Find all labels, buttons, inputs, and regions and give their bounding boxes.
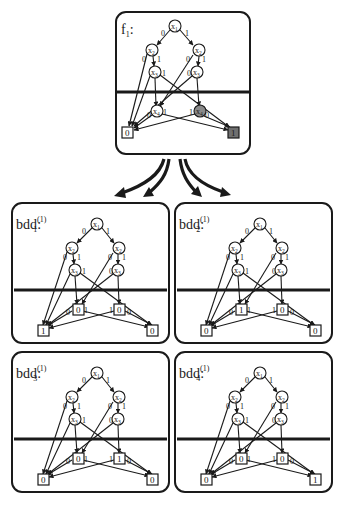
terminal-left: 0 [38,474,49,485]
svg-text:1: 1 [41,326,46,336]
cut-terminal-right: 0 [277,453,288,464]
svg-text:0: 0 [63,402,67,411]
svg-text:0: 0 [280,305,285,315]
node-x3L: x3 [69,264,81,276]
terminal-1-shaded: 1 [228,127,239,138]
svg-text:1: 1 [106,376,110,385]
svg-text:0: 0 [76,305,81,315]
svg-text:0: 0 [187,69,191,78]
svg-text:1: 1 [272,306,276,315]
svg-text:0: 0 [245,376,249,385]
svg-text:1: 1 [285,253,289,262]
node-x2L: x2 [66,242,78,254]
svg-text:0: 0 [125,128,130,138]
cut-terminal-left: 1 [236,304,247,315]
svg-text:0: 0 [226,402,230,411]
svg-text:1: 1 [231,128,236,138]
node-x1: x1 [169,20,181,32]
node-x2R: x2 [276,391,288,403]
svg-text:0: 0 [63,253,67,262]
svg-text:1: 1 [109,455,113,464]
svg-text:0: 0 [186,55,190,64]
node-x2-right: x2 [193,44,205,56]
svg-text:1: 1 [245,267,249,276]
sub-panel-bdd4: bdd(1)4:010101100110x1x2x2x3x30001 [175,352,332,492]
node-x3L: x3 [232,413,244,425]
svg-text:1: 1 [247,455,251,464]
sub-panel-bdd1: bdd(1)1:010101100110x1x2x2x3x30010 [12,203,169,343]
node-x3R: x3 [112,413,124,425]
svg-text:1: 1 [82,267,86,276]
svg-text:0: 0 [313,326,318,336]
svg-text:1: 1 [117,454,122,464]
node-x3-right: x3 [191,66,203,78]
svg-text:1: 1 [82,416,86,425]
node-x2R: x2 [113,242,125,254]
node-x3L: x3 [69,413,81,425]
node-x3R: x3 [112,264,124,276]
terminal-left: 0 [201,474,212,485]
svg-text:1: 1 [239,305,244,315]
svg-text:1: 1 [272,455,276,464]
svg-text:0: 0 [41,475,46,485]
node-x2-left: x2 [146,44,158,56]
node-x4-left: x4 [151,105,163,117]
terminal-right: 1 [310,474,321,485]
svg-text:1: 1 [313,475,318,485]
terminal-left: 0 [201,325,212,336]
node-x2L: x2 [229,391,241,403]
cut-terminal-left: 0 [73,453,84,464]
svg-text:1: 1 [285,402,289,411]
svg-text:0: 0 [204,326,209,336]
svg-text:0: 0 [76,454,81,464]
cut-terminal-left: 0 [236,453,247,464]
terminal-left: 1 [38,325,49,336]
svg-text:0: 0 [229,308,233,317]
node-x2R: x2 [276,242,288,254]
cut-terminal-right: 1 [114,453,125,464]
svg-text:1: 1 [202,55,206,64]
svg-text:1: 1 [247,306,251,315]
svg-text:0: 0 [271,253,275,262]
svg-text:0: 0 [204,475,209,485]
svg-text:0: 0 [271,402,275,411]
svg-text:1: 1 [245,416,249,425]
svg-text:0: 0 [239,454,244,464]
svg-text:1: 1 [189,108,193,117]
svg-text:0: 0 [66,308,70,317]
cut-terminal-right: 0 [277,304,288,315]
svg-text:0: 0 [66,457,70,466]
svg-text:1: 1 [106,227,110,236]
svg-text:1: 1 [163,108,167,117]
sub-panel-bdd3: bdd(1)3:010101100110x1x2x2x3x30100 [12,352,169,492]
cut-terminal-right: 0 [114,304,125,315]
decomposition-arrows [114,159,231,198]
terminal-0: 0 [122,127,133,138]
svg-text:0: 0 [150,326,155,336]
node-x2L: x2 [66,391,78,403]
svg-text:0: 0 [290,308,294,317]
svg-text:1: 1 [157,55,161,64]
svg-text:1: 1 [269,227,273,236]
terminal-right: 0 [310,325,321,336]
svg-text:0: 0 [290,457,294,466]
terminal-right: 0 [147,474,158,485]
svg-text:0: 0 [161,29,165,38]
main-panel-f1: f1: 0 1 0 1 0 1 1 [116,12,250,154]
svg-text:0: 0 [280,454,285,464]
svg-text:1: 1 [162,69,166,78]
svg-text:1: 1 [109,306,113,315]
svg-text:1: 1 [77,253,81,262]
svg-text:0: 0 [226,253,230,262]
node-x1: x1 [254,367,266,379]
node-x3-left: x3 [149,66,161,78]
svg-text:0: 0 [142,55,146,64]
svg-text:0: 0 [147,111,151,120]
svg-text:1: 1 [122,402,126,411]
node-x1: x1 [91,367,103,379]
svg-text:0: 0 [82,376,86,385]
svg-text:0: 0 [108,402,112,411]
node-x3R: x3 [275,264,287,276]
svg-text:1: 1 [240,253,244,262]
node-x2R: x2 [113,391,125,403]
